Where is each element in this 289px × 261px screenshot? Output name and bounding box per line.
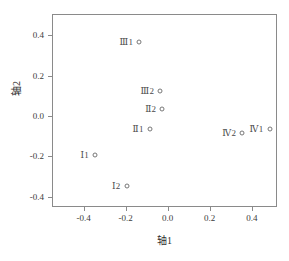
data-point-marker[interactable] bbox=[93, 153, 98, 158]
plot-area: Ⅲ1Ⅲ2Ⅱ2Ⅱ1Ⅰ1Ⅰ2Ⅳ2Ⅳ1 bbox=[52, 14, 277, 207]
x-tick-mark bbox=[84, 207, 85, 211]
data-point-label: Ⅲ1 bbox=[119, 37, 133, 47]
data-point-label: Ⅰ1 bbox=[80, 150, 89, 160]
x-tick-mark bbox=[252, 207, 253, 211]
data-point-marker[interactable] bbox=[137, 40, 142, 45]
data-point-marker[interactable] bbox=[158, 88, 163, 93]
x-tick-label: -0.4 bbox=[76, 213, 90, 223]
x-tick-mark bbox=[210, 207, 211, 211]
x-tick-label: 0.0 bbox=[162, 213, 173, 223]
data-point-marker[interactable] bbox=[240, 131, 245, 136]
x-axis-title: 轴1 bbox=[52, 232, 277, 247]
x-tick-mark bbox=[168, 207, 169, 211]
data-point-label: Ⅱ1 bbox=[133, 124, 144, 134]
data-point-marker[interactable] bbox=[267, 127, 272, 132]
x-tick-label: 0.2 bbox=[204, 213, 215, 223]
data-point-marker[interactable] bbox=[147, 127, 152, 132]
y-tick-label: -0.4 bbox=[30, 192, 44, 202]
data-point-label: Ⅱ2 bbox=[145, 104, 156, 114]
x-tick-label: -0.2 bbox=[118, 213, 132, 223]
scatter-plot-figure: 轴2 -0.4-0.20.00.20.4 Ⅲ1Ⅲ2Ⅱ2Ⅱ1Ⅰ1Ⅰ2Ⅳ2Ⅳ1 -0… bbox=[0, 0, 289, 261]
data-point-label: Ⅳ2 bbox=[222, 128, 236, 138]
y-tick-label: 0.0 bbox=[33, 111, 44, 121]
y-tick-label: -0.2 bbox=[30, 151, 44, 161]
data-point-marker[interactable] bbox=[160, 106, 165, 111]
data-point-label: Ⅲ2 bbox=[140, 86, 154, 96]
data-point-label: Ⅳ1 bbox=[249, 124, 263, 134]
x-axis-ticks: -0.4-0.20.00.20.4 bbox=[52, 207, 277, 229]
y-axis-ticks: -0.4-0.20.00.20.4 bbox=[0, 14, 52, 207]
x-tick-mark bbox=[126, 207, 127, 211]
data-point-layer: Ⅲ1Ⅲ2Ⅱ2Ⅱ1Ⅰ1Ⅰ2Ⅳ2Ⅳ1 bbox=[53, 15, 276, 206]
data-point-marker[interactable] bbox=[124, 183, 129, 188]
data-point-label: Ⅰ2 bbox=[112, 181, 121, 191]
y-tick-label: 0.4 bbox=[33, 30, 44, 40]
y-tick-label: 0.2 bbox=[33, 71, 44, 81]
x-tick-label: 0.4 bbox=[246, 213, 257, 223]
